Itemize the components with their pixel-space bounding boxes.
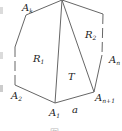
- left-edge-fragment: [0, 52, 3, 59]
- left-edge-fragment: [0, 7, 3, 14]
- edge-right-dashed: [102, 14, 103, 55]
- label-r1: R1: [32, 53, 44, 65]
- label-r2: R2: [84, 29, 97, 41]
- diagonal-an1-top: [62, 0, 94, 92]
- label-a1: A1: [48, 107, 60, 119]
- label-a2: A2: [10, 90, 22, 102]
- label-t: T: [68, 71, 76, 82]
- figure-caption: 图: [50, 128, 59, 131]
- label-ak: Ak: [21, 2, 33, 14]
- polygon-diagram: Ak A2 A1 An An+1 R1 R2 T a 图: [0, 0, 122, 131]
- label-edge-a: a: [72, 104, 78, 115]
- edge-an-an1: [94, 55, 102, 92]
- polygon-figure: Ak A2 A1 An An+1 R1 R2 T a 图: [0, 0, 122, 131]
- edge-a: [55, 92, 94, 103]
- left-edge-fragment: [0, 85, 3, 92]
- label-an1: An+1: [94, 92, 115, 104]
- edge-left-ak: [15, 15, 26, 47]
- label-an: An: [108, 54, 120, 66]
- edge-top-right: [62, 0, 103, 14]
- diagonal-a1-top: [55, 0, 62, 103]
